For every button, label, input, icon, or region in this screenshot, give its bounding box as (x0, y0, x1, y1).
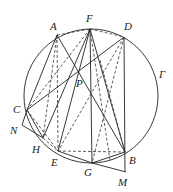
label-B: B (129, 154, 136, 166)
label-E: E (50, 156, 58, 168)
label-C: C (13, 103, 21, 115)
label-H: H (31, 143, 41, 155)
label-P: P (75, 77, 83, 89)
label-G: G (84, 166, 92, 178)
label-F: F (85, 12, 93, 24)
geometry-diagram: A F D Γ P C N H E G B M (0, 0, 173, 192)
label-M: M (117, 176, 128, 188)
label-D: D (123, 20, 132, 32)
dashed-segments (27, 29, 125, 163)
label-N: N (9, 124, 18, 136)
label-A: A (49, 20, 57, 32)
label-gamma: Γ (158, 68, 166, 80)
